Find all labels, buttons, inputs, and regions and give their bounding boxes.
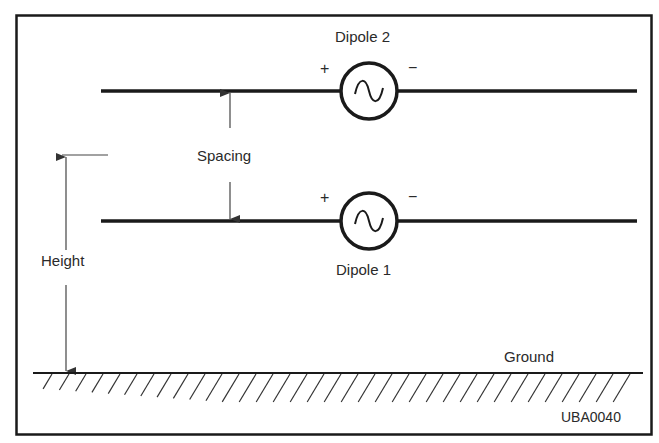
dipole-diagram (0, 0, 659, 443)
dipole-1-plus: + (320, 189, 329, 207)
dipole-1-label: Dipole 1 (336, 261, 391, 278)
dipole-1-minus: − (408, 188, 417, 206)
dipole-2 (101, 63, 637, 119)
figure-code: UBA0040 (561, 409, 621, 425)
height-label: Height (41, 252, 84, 269)
dipole-2-plus: + (320, 60, 329, 78)
dipole-2-minus: − (408, 59, 417, 77)
figure-border (17, 16, 652, 435)
dipole-2-label: Dipole 2 (335, 28, 390, 45)
ground (33, 373, 643, 402)
dipole-1 (101, 193, 637, 249)
spacing-label: Spacing (197, 147, 251, 164)
ground-label: Ground (504, 348, 554, 365)
